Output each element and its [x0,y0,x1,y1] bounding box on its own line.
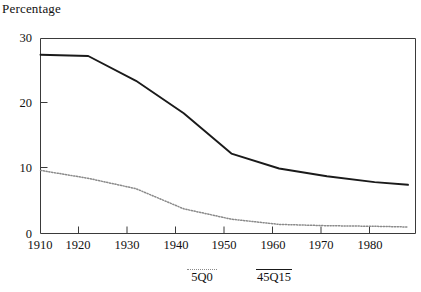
y-tick-label-20: 20 [6,96,32,111]
series-line-45q15 [41,55,409,185]
legend-swatch-solid-icon [256,262,292,270]
plot-frame [41,39,416,234]
chart-figure: Percentage 30 20 10 0 19 [0,0,421,292]
y-tick-label-10: 10 [6,161,32,176]
x-tick-label-1950: 1950 [212,238,237,253]
x-tick-label-1920: 1920 [66,238,91,253]
x-tick-label-1980: 1980 [358,238,383,253]
legend-label-45q15: 45Q15 [256,271,292,284]
legend-swatch-dotted-icon [187,262,217,270]
x-tick-label-1930: 1930 [115,238,140,253]
legend-label-5q0: 5Q0 [187,271,217,284]
legend-item-5q0: 5Q0 [187,262,217,284]
x-tick-label-1910: 1910 [28,238,53,253]
x-tick-label-1940: 1940 [164,238,189,253]
x-axis-ticks [79,227,370,234]
x-tick-label-1960: 1960 [261,238,286,253]
y-tick-label-30: 30 [6,31,32,46]
y-axis-ticks [41,103,48,168]
x-tick-label-1970: 1970 [309,238,334,253]
legend-item-45q15: 45Q15 [256,262,292,284]
